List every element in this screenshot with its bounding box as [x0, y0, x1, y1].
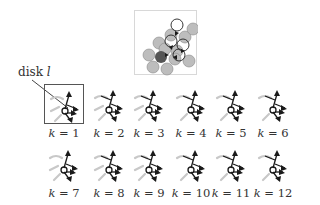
k-label: k = 12 — [251, 186, 295, 200]
arrow-glyph-icon — [253, 84, 293, 124]
k-label: k = 1 — [42, 126, 86, 140]
k-value: = 12 — [261, 186, 293, 200]
k-variable: k — [212, 186, 219, 200]
panel-k-11 — [211, 144, 251, 184]
k-variable: k — [254, 186, 261, 200]
arrow-glyph-icon — [129, 84, 169, 124]
k-value: = 8 — [100, 186, 124, 200]
k-label: k = 10 — [169, 186, 213, 200]
panel-k-1 — [44, 84, 84, 124]
k-value: = 6 — [264, 126, 288, 140]
k-label: k = 4 — [169, 126, 213, 140]
panel-k-3 — [129, 84, 169, 124]
k-label: k = 7 — [42, 186, 86, 200]
k-value: = 10 — [179, 186, 211, 200]
k-value: = 2 — [100, 126, 124, 140]
k-label: k = 11 — [209, 186, 253, 200]
k-value: = 7 — [55, 186, 79, 200]
k-value: = 4 — [182, 126, 206, 140]
arrow-glyph-icon — [171, 84, 211, 124]
k-value: = 11 — [219, 186, 251, 200]
panel-k-7 — [44, 144, 84, 184]
panel-k-4 — [171, 84, 211, 124]
arrow-glyph-icon — [44, 144, 84, 184]
k-label: k = 8 — [87, 186, 131, 200]
k-label: k = 2 — [87, 126, 131, 140]
panel-k-9 — [129, 144, 169, 184]
panel-k-10 — [171, 144, 211, 184]
panel-k-2 — [89, 84, 129, 124]
k-value: = 3 — [140, 126, 164, 140]
k-label: k = 6 — [251, 126, 295, 140]
k-label: k = 9 — [127, 186, 171, 200]
panel-k-5 — [211, 84, 251, 124]
arrow-glyph-icon — [89, 84, 129, 124]
k-label: k = 3 — [127, 126, 171, 140]
arrow-glyph-icon — [253, 144, 293, 184]
k-label: k = 5 — [209, 126, 253, 140]
arrow-glyph-icon — [171, 144, 211, 184]
arrow-glyph-icon — [89, 144, 129, 184]
panel-k-12 — [253, 144, 293, 184]
arrow-glyph-icon — [211, 84, 251, 124]
k-value: = 5 — [222, 126, 246, 140]
k-value: = 9 — [140, 186, 164, 200]
arrow-glyph-icon — [129, 144, 169, 184]
k-value: = 1 — [55, 126, 79, 140]
panel-k-6 — [253, 84, 293, 124]
panel-k-8 — [89, 144, 129, 184]
k-variable: k — [172, 186, 179, 200]
arrow-glyph-icon — [45, 85, 85, 125]
arrow-glyph-icon — [211, 144, 251, 184]
